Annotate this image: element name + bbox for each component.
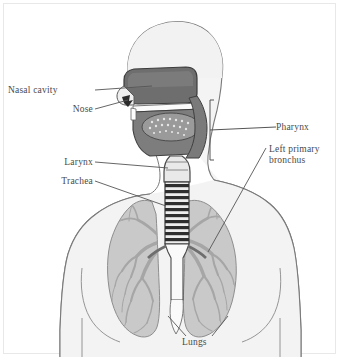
label-nose: Nose [8,104,93,115]
tongue [142,113,200,141]
diagram-canvas: Nasal cavity Nose Larynx Trachea Pharynx… [0,0,339,357]
leader-larynx [95,162,168,168]
label-left-primary-bronchus: Left primary bronchus [269,144,320,166]
label-bronchus-line2: bronchus [269,155,305,165]
label-nasal-cavity: Nasal cavity [8,85,58,96]
larynx [164,156,190,182]
label-trachea: Trachea [8,176,93,187]
label-pharynx: Pharynx [276,122,309,133]
teeth [131,108,136,120]
label-lungs: Lungs [182,337,207,348]
pharynx-bracket [210,100,276,160]
label-larynx: Larynx [8,157,93,168]
label-bronchus-line1: Left primary [269,144,320,154]
